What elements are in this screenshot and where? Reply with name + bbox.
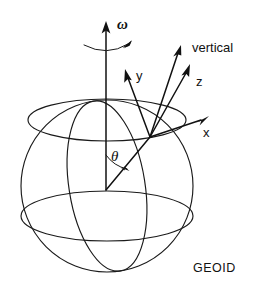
x-axis-label: x [203, 125, 210, 140]
omega-label: ω [117, 16, 128, 32]
sphere-outline [21, 100, 193, 272]
y-axis-line [128, 78, 150, 137]
theta-label: θ [111, 148, 119, 164]
y-axis-label: y [136, 68, 143, 83]
meridian-circle [56, 95, 158, 277]
geoid-label: GEOID [193, 261, 236, 275]
vertical-label: vertical [192, 40, 233, 55]
y-axis-arrowhead [124, 69, 132, 83]
geoid-diagram-svg: ω θ vertical y z x GEOID [0, 0, 266, 303]
z-axis-label: z [196, 74, 203, 89]
spin-arc-arrowhead-fill [124, 40, 132, 48]
geoid-diagram-canvas: ω θ vertical y z x GEOID [0, 0, 266, 303]
equator-circle [21, 191, 193, 241]
